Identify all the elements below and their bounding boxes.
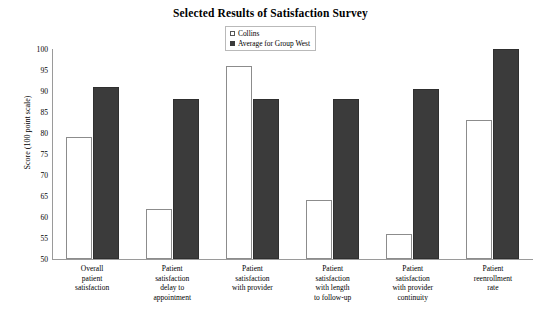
bar-group	[146, 49, 199, 259]
bar-group	[66, 49, 119, 259]
bar-group	[386, 49, 439, 259]
bar-group-west	[413, 89, 439, 259]
plot-area: 10095908580757065605550	[52, 49, 533, 259]
bar-group-west	[93, 87, 119, 259]
y-tick-label: 75	[40, 150, 48, 159]
bar-group	[306, 49, 359, 259]
y-axis-title: Score (100 point scale)	[23, 58, 32, 208]
x-category-label-line: satisfaction	[132, 274, 212, 284]
x-category-label-line: rate	[453, 283, 533, 293]
legend-item-collins: Collins	[230, 29, 310, 39]
bar-collins	[226, 66, 252, 259]
x-category-label-line: delay to	[132, 283, 212, 293]
bar-group	[466, 49, 519, 259]
x-category-label-line: with provider	[373, 283, 453, 293]
x-category-label: Patientsatisfactionwith lengthto follow-…	[293, 264, 373, 302]
bar-group-west	[253, 99, 279, 259]
bar-collins	[66, 137, 92, 259]
legend-swatch-group-west-icon	[230, 41, 235, 46]
y-tick-label: 95	[40, 66, 48, 75]
x-category-label-line: satisfaction	[212, 274, 292, 284]
x-category-label-line: appointment	[132, 293, 212, 303]
y-tick-label: 70	[40, 171, 48, 180]
x-category-label-line: satisfaction	[293, 274, 373, 284]
satisfaction-survey-chart: Selected Results of Satisfaction Survey …	[0, 0, 541, 316]
y-tick-label: 85	[40, 108, 48, 117]
legend-label-collins: Collins	[238, 29, 259, 39]
x-category-label-line: Overall	[52, 264, 132, 274]
y-tick-label: 65	[40, 192, 48, 201]
y-tick-label: 60	[40, 213, 48, 222]
x-category-label-line: with provider	[212, 283, 292, 293]
x-axis-line	[52, 259, 533, 260]
x-category-label: Patientreenrollmentrate	[453, 264, 533, 293]
x-category-label-line: satisfaction	[373, 274, 453, 284]
x-category-label-line: continuity	[373, 293, 453, 303]
x-category-label: Overallpatientsatisfaction	[52, 264, 132, 293]
x-category-label-line: Patient	[373, 264, 453, 274]
x-category-label-line: patient	[52, 274, 132, 284]
chart-title: Selected Results of Satisfaction Survey	[0, 7, 541, 19]
bar-collins	[146, 209, 172, 259]
x-category-label-line: Patient	[212, 264, 292, 274]
y-tick-label: 50	[40, 255, 48, 264]
x-category-label-line: to follow-up	[293, 293, 373, 303]
bar-group	[226, 49, 279, 259]
bar-collins	[306, 200, 332, 259]
bar-collins	[386, 234, 412, 259]
legend-item-group-west: Average for Group West	[230, 39, 310, 49]
x-category-label-line: reenrollment	[453, 274, 533, 284]
y-tick-label: 55	[40, 234, 48, 243]
legend-label-group-west: Average for Group West	[238, 39, 310, 49]
x-category-label: Patientsatisfactionwith provider	[212, 264, 292, 293]
x-category-label-line: satisfaction	[52, 283, 132, 293]
bar-group-west	[173, 99, 199, 259]
x-category-label-line: with length	[293, 283, 373, 293]
chart-legend: Collins Average for Group West	[225, 26, 316, 51]
y-tick-label: 80	[40, 129, 48, 138]
bar-group-west	[333, 99, 359, 259]
x-category-label: Patientsatisfactionwith providercontinui…	[373, 264, 453, 302]
x-category-label-line: Patient	[453, 264, 533, 274]
bar-group-west	[493, 49, 519, 259]
legend-swatch-collins-icon	[230, 31, 235, 36]
x-category-label-line: Patient	[293, 264, 373, 274]
y-tick-label: 100	[37, 45, 48, 54]
y-tick-label: 90	[40, 87, 48, 96]
x-category-label-line: Patient	[132, 264, 212, 274]
bar-collins	[466, 120, 492, 259]
x-category-label: Patientsatisfactiondelay toappointment	[132, 264, 212, 302]
